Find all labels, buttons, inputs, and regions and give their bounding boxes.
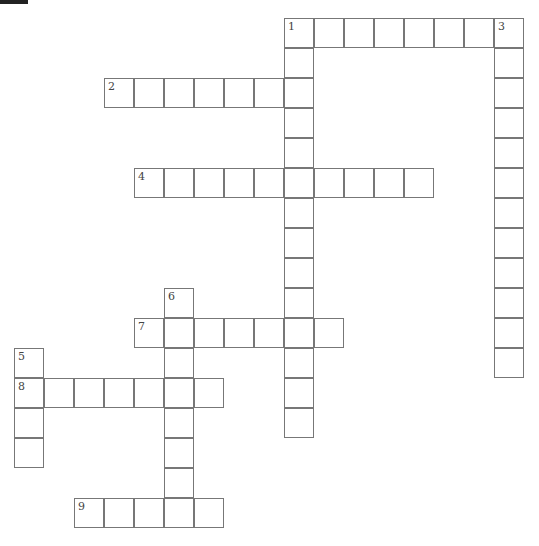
crossword-cell[interactable] <box>464 18 494 48</box>
clue-number: 9 <box>78 500 85 513</box>
crossword-cell[interactable] <box>224 318 254 348</box>
crossword-cell[interactable] <box>314 318 344 348</box>
crossword-cell[interactable] <box>284 48 314 78</box>
crossword-cell[interactable] <box>104 378 134 408</box>
crossword-cell[interactable] <box>224 168 254 198</box>
crossword-cell[interactable] <box>14 438 44 468</box>
clue-number: 2 <box>108 80 115 93</box>
crossword-cell[interactable] <box>164 378 194 408</box>
crossword-cell[interactable] <box>134 378 164 408</box>
crossword-cell[interactable] <box>14 408 44 438</box>
crossword-cell[interactable] <box>494 168 524 198</box>
crossword-cell[interactable] <box>164 468 194 498</box>
crossword-cell[interactable] <box>284 258 314 288</box>
crossword-cell[interactable] <box>284 408 314 438</box>
clue-number: 4 <box>138 170 145 183</box>
crossword-cell[interactable] <box>44 378 74 408</box>
crossword-cell[interactable] <box>434 18 464 48</box>
crossword-cell[interactable] <box>134 78 164 108</box>
clue-number: 8 <box>18 380 25 393</box>
crossword-cell[interactable] <box>284 348 314 378</box>
crossword-cell[interactable]: 8 <box>14 378 44 408</box>
crossword-cell[interactable] <box>164 78 194 108</box>
crossword-cell[interactable] <box>254 78 284 108</box>
crossword-cell[interactable] <box>254 318 284 348</box>
crossword-cell[interactable] <box>194 378 224 408</box>
crossword-cell[interactable] <box>374 18 404 48</box>
crossword-cell[interactable] <box>194 318 224 348</box>
crossword-cell[interactable] <box>494 198 524 228</box>
crossword-cell[interactable] <box>164 318 194 348</box>
crossword-cell[interactable]: 1 <box>284 18 314 48</box>
crossword-cell[interactable] <box>284 198 314 228</box>
crossword-cell[interactable]: 6 <box>164 288 194 318</box>
crossword-cell[interactable] <box>194 78 224 108</box>
crossword-cell[interactable] <box>344 168 374 198</box>
crossword-cell[interactable] <box>374 168 404 198</box>
clue-number: 7 <box>138 320 145 333</box>
crossword-cell[interactable] <box>494 318 524 348</box>
crossword-cell[interactable] <box>494 348 524 378</box>
crossword-cell[interactable] <box>494 108 524 138</box>
crossword-cell[interactable]: 5 <box>14 348 44 378</box>
crossword-cell[interactable] <box>494 258 524 288</box>
crossword-cell[interactable] <box>164 438 194 468</box>
crossword-cell[interactable]: 3 <box>494 18 524 48</box>
clue-number: 1 <box>288 20 295 33</box>
crossword-cell[interactable] <box>134 498 164 528</box>
clue-number: 5 <box>18 350 25 363</box>
crossword-cell[interactable] <box>404 18 434 48</box>
crossword-cell[interactable]: 4 <box>134 168 164 198</box>
crossword-cell[interactable] <box>194 498 224 528</box>
crossword-cell[interactable] <box>314 168 344 198</box>
crossword-cell[interactable]: 9 <box>74 498 104 528</box>
crossword-cell[interactable] <box>194 168 224 198</box>
clue-number: 3 <box>498 20 505 33</box>
clue-number: 6 <box>168 290 175 303</box>
crossword-cell[interactable] <box>404 168 434 198</box>
crossword-cell[interactable] <box>314 18 344 48</box>
crossword-cell[interactable] <box>284 378 314 408</box>
crossword-cell[interactable] <box>164 408 194 438</box>
crossword-cell[interactable] <box>284 168 314 198</box>
crossword-cell[interactable] <box>254 168 284 198</box>
corner-mark <box>0 0 28 4</box>
crossword-cell[interactable] <box>224 78 254 108</box>
crossword-cell[interactable] <box>284 288 314 318</box>
crossword-cell[interactable] <box>164 168 194 198</box>
crossword-cell[interactable] <box>494 138 524 168</box>
crossword-cell[interactable]: 7 <box>134 318 164 348</box>
crossword-cell[interactable]: 2 <box>104 78 134 108</box>
crossword-cell[interactable] <box>74 378 104 408</box>
crossword-cell[interactable] <box>344 18 374 48</box>
crossword-cell[interactable] <box>284 138 314 168</box>
crossword-cell[interactable] <box>164 498 194 528</box>
crossword-cell[interactable] <box>494 288 524 318</box>
crossword-cell[interactable] <box>104 498 134 528</box>
crossword-cell[interactable] <box>284 318 314 348</box>
crossword-cell[interactable] <box>164 348 194 378</box>
crossword-cell[interactable] <box>494 78 524 108</box>
crossword-cell[interactable] <box>284 108 314 138</box>
crossword-cell[interactable] <box>494 228 524 258</box>
crossword-cell[interactable] <box>284 228 314 258</box>
crossword-cell[interactable] <box>284 78 314 108</box>
crossword-cell[interactable] <box>494 48 524 78</box>
